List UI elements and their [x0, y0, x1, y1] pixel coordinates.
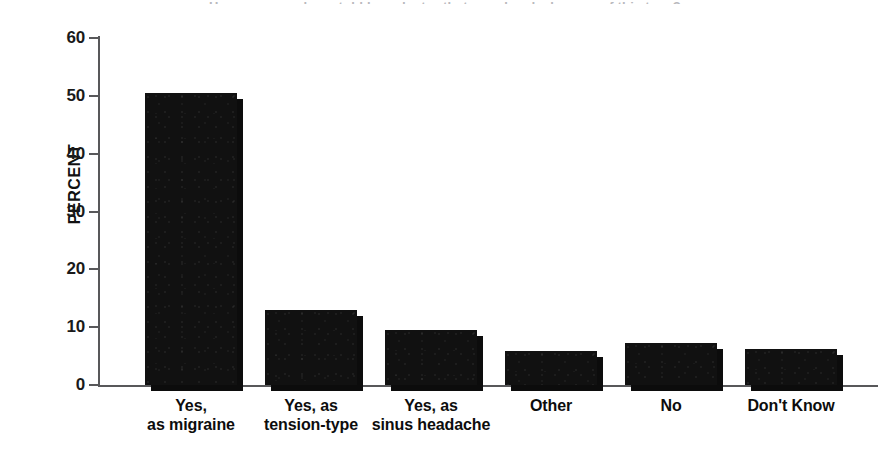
bar — [625, 343, 723, 385]
bar — [745, 349, 843, 385]
bar-body — [505, 351, 597, 385]
bar — [145, 93, 243, 385]
x-axis-category-label: Don't Know — [711, 396, 871, 415]
bar-body — [385, 330, 477, 385]
bar-body — [145, 93, 237, 385]
bar-body — [745, 349, 837, 385]
y-axis-tick-label: 10 — [45, 318, 85, 335]
bar-body — [265, 310, 357, 385]
y-axis-tick-label: 20 — [45, 260, 85, 277]
bar-body — [625, 343, 717, 385]
y-axis-tick-row: 0 — [0, 376, 85, 394]
y-axis-tick-label: 30 — [45, 203, 85, 220]
cut-off-title-sliver: Have you ever been told by a doctor that… — [0, 0, 890, 4]
y-axis-tick-row: 20 — [0, 260, 85, 278]
y-axis-tick-row: 60 — [0, 29, 85, 47]
y-axis-tick-row: 50 — [0, 87, 85, 105]
y-axis-tick-label: 0 — [45, 376, 85, 393]
y-axis-tick-row: 30 — [0, 203, 85, 221]
bar — [265, 310, 363, 385]
y-axis-tick-label: 60 — [45, 29, 85, 46]
bar-series — [98, 38, 878, 385]
bar-chart-figure: Have you ever been told by a doctor that… — [0, 0, 890, 460]
y-axis-tick-label: 40 — [45, 145, 85, 162]
y-axis-tick-row: 10 — [0, 318, 85, 336]
bar — [385, 330, 483, 385]
y-axis-tick-label: 50 — [45, 87, 85, 104]
y-axis-tick-row: 40 — [0, 145, 85, 163]
y-axis-title: PERCENT — [66, 119, 84, 249]
bar — [505, 351, 603, 385]
